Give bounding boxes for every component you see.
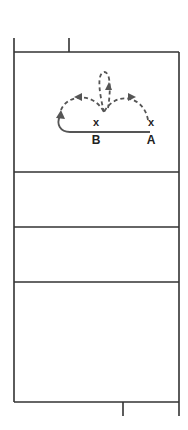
arrowhead-icon <box>105 82 112 90</box>
player-a-marker: x <box>148 116 155 128</box>
arrowhead-icon <box>56 110 65 119</box>
dashed-loop-up <box>99 72 109 112</box>
volleyball-court-diagram: x x B A <box>0 0 188 430</box>
player-a-label: A <box>147 133 156 147</box>
solid-path-a-run <box>58 116 150 132</box>
dashed-arc-right <box>104 98 148 120</box>
play-paths <box>56 72 150 132</box>
player-b-label: B <box>92 133 101 147</box>
dashed-arc-left <box>61 97 104 112</box>
court-lines <box>14 38 179 416</box>
arrowhead-icon <box>74 93 82 101</box>
player-b-marker: x <box>93 116 100 128</box>
